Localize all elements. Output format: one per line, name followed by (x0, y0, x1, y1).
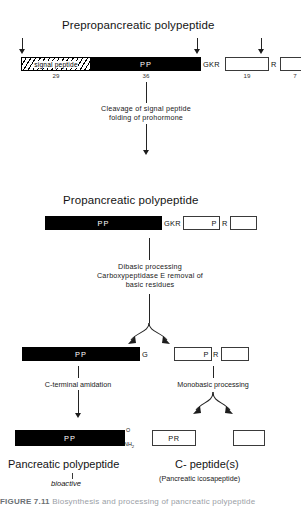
signal-peptide-count: 29 (46, 72, 66, 79)
footer-right-sub: (Pancreatic icosapeptide) (159, 474, 240, 483)
figure-caption-text: Biosynthesis and processing of pancreati… (52, 497, 255, 506)
step3-right-fork (0, 390, 301, 422)
row2-title: Propancreatic polypeptide (63, 194, 198, 206)
step2-line3: basic residues (39, 280, 261, 289)
step1-text: Cleavage of signal peptide folding of pr… (46, 104, 246, 122)
row1-box-19 (225, 57, 269, 71)
step2-fork (0, 318, 301, 348)
row3-box-p: P (174, 347, 212, 361)
step2-line-top (149, 238, 150, 260)
row2-pp-label: PP (98, 219, 110, 228)
row1-box19-count: 19 (237, 72, 257, 79)
footer-left-title: Pancreatic polypeptide (8, 458, 119, 470)
row1-pp-segment: PP (91, 57, 201, 71)
step1-line2: folding of prohormone (46, 113, 246, 122)
step1-line-top (146, 82, 147, 103)
row2-pp-segment: PP (45, 216, 162, 230)
step3-right-line-top (213, 366, 214, 378)
row3-pp-segment: PP (22, 347, 140, 361)
row2-r-label: R (222, 219, 228, 228)
row4-amide-nh2: NH2 (124, 441, 134, 450)
row4-pp-label: PP (64, 434, 76, 443)
row4-amide-nh2-text: NH (124, 441, 132, 447)
row3-pp-label: PP (75, 350, 87, 359)
step2-line1: Dibasic processing (39, 262, 261, 271)
step3-left-text: C-terminal amidation (8, 380, 148, 389)
row3-p-label: P (203, 350, 209, 359)
step1-arrow-head (143, 150, 149, 155)
figure-caption: FIGURE 7.11 Biosynthesis and processing … (0, 497, 301, 506)
row3-r-label: R (213, 350, 219, 359)
signal-peptide-label: signal peptide (34, 61, 79, 68)
row1-pp-count: 36 (136, 72, 156, 79)
step2-line2: Carboxypeptidase E removal of (39, 271, 261, 280)
step1-line-bottom (146, 124, 147, 152)
figure-canvas: Prepropancreatic polypeptide signal pept… (0, 0, 301, 506)
row2-gkr-label: GKR (164, 219, 181, 228)
row3-box-empty (221, 347, 249, 361)
row4-amide-nh2-sub: 2 (132, 444, 134, 449)
step2-text: Dibasic processing Carboxypeptidase E re… (39, 262, 261, 289)
footer-right-title: C- peptide(s) (175, 458, 239, 470)
row1-box7-count: 7 (285, 72, 301, 79)
row1-arrow1-head (19, 49, 25, 54)
row2-p-label: P (211, 219, 217, 228)
row1-box-7 (280, 57, 301, 71)
step3-right-text: Monobasic processing (153, 380, 273, 389)
row3-g-label: G (142, 350, 148, 359)
row4-pr-label: PR (168, 434, 179, 443)
row4-box-empty (233, 430, 265, 446)
signal-peptide-segment: signal peptide (21, 57, 91, 71)
row1-pp-label: PP (140, 60, 152, 69)
row1-gkr-label: GKR (203, 60, 220, 69)
row4-amide-o: O (126, 427, 130, 433)
row1-r-label: R (271, 60, 277, 69)
row1-arrow3-head (258, 49, 264, 54)
figure-caption-number: FIGURE 7.11 (0, 497, 50, 506)
step3-left-line-top (78, 366, 79, 378)
row4-pp-segment: PP (15, 430, 125, 446)
row2-box-empty (230, 216, 257, 230)
row4-box-pr: PR (152, 430, 196, 446)
row1-arrow2-head (194, 49, 200, 54)
row1-title: Prepropancreatic polypeptide (62, 19, 214, 31)
step1-line1: Cleavage of signal peptide (46, 104, 246, 113)
footer-left-sub: bioactive (51, 479, 81, 488)
row2-box-p: P (183, 216, 220, 230)
